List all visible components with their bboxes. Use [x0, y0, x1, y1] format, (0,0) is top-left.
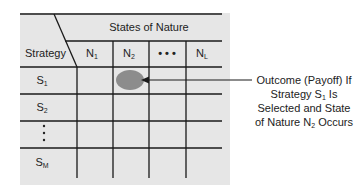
annotation-line-2: Strategy S1 Is [271, 88, 338, 101]
table-background [20, 13, 230, 185]
payoff-table-diagram: States of Nature Strategy N1 N2 • • • NL… [0, 0, 364, 192]
annotation-line-3: Selected and State [258, 102, 351, 114]
ellipsis-dot [43, 132, 45, 134]
highlighted-payoff-cell [116, 70, 144, 90]
annotation-line-4: of Nature N2 Occurs [255, 116, 354, 129]
annotation-line-1: Outcome (Payoff) If [256, 74, 352, 86]
column-header-ellipsis: • • • [158, 47, 176, 59]
states-of-nature-label: States of Nature [109, 21, 189, 33]
strategy-label: Strategy [25, 47, 66, 59]
ellipsis-dot [43, 125, 45, 127]
ellipsis-dot [43, 139, 45, 141]
